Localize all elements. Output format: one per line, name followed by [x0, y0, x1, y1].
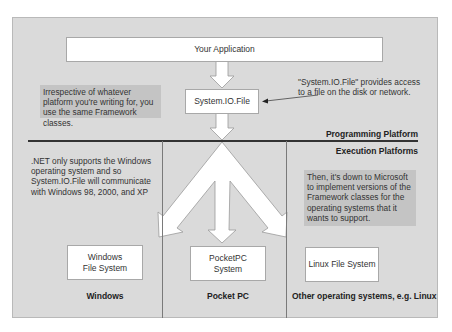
- linux-file-system-box: Linux File System: [305, 247, 379, 282]
- linux-file-system-label: Linux File System: [308, 259, 375, 270]
- system-io-file-note-text: "System.IO.File" provides access to a fi…: [298, 77, 420, 97]
- pocketpc-system-label: PocketPC System: [207, 253, 249, 274]
- microsoft-callout-text: Then, it's down to Microsoft to implemen…: [307, 172, 411, 223]
- pocketpc-system-box: PocketPC System: [190, 246, 266, 281]
- system-io-file-note: "System.IO.File" provides access to a fi…: [298, 77, 428, 97]
- microsoft-callout: Then, it's down to Microsoft to implemen…: [304, 170, 416, 226]
- windows-column-label: Windows: [67, 291, 143, 301]
- pocketpc-column-label: Pocket PC: [178, 291, 278, 301]
- other-os-column-label: Other operating systems, e.g. Linux: [292, 291, 442, 301]
- windows-note: .NET only supports the Windows operating…: [31, 156, 156, 197]
- windows-file-system-box: Windows File System: [67, 245, 143, 280]
- windows-file-system-label: Windows File System: [80, 252, 130, 273]
- programming-platform-label: Programming Platform: [300, 129, 418, 139]
- framework-callout: Irrespective of whatever platform you're…: [40, 85, 161, 118]
- execution-platforms-label: Execution Platforms: [300, 146, 418, 156]
- pointer-arrowhead-icon: [262, 99, 268, 104]
- windows-note-text: .NET only supports the Windows operating…: [31, 156, 151, 197]
